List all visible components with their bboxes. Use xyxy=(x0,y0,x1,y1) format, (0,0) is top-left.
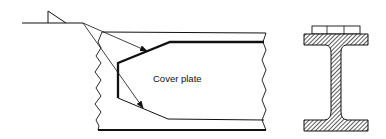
i-beam-section xyxy=(304,26,368,131)
i-beam-hatched-section xyxy=(304,34,368,131)
left-break-line xyxy=(95,32,102,130)
cover-plate-outline: Cover plate xyxy=(118,42,264,120)
right-break-line xyxy=(262,33,266,130)
flange-top-edge xyxy=(102,32,266,33)
section-cover-plate xyxy=(312,26,360,34)
diagram-canvas: Cover plate xyxy=(0,0,386,139)
cover-plate-heavy-edge xyxy=(118,42,264,98)
fillet-weld-triangle-icon xyxy=(48,11,66,23)
cover-plate-light-edge xyxy=(118,98,264,120)
cover-plate-label: Cover plate xyxy=(153,73,202,84)
